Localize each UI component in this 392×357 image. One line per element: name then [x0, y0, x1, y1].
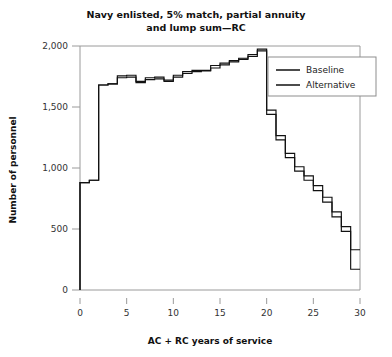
y-tick-label: 1,500: [42, 102, 68, 112]
y-tick-label: 500: [51, 224, 68, 234]
legend-label-alternative: Alternative: [306, 80, 356, 90]
x-tick-label: 5: [124, 308, 130, 318]
x-tick-label: 15: [214, 308, 225, 318]
y-tick-label: 1,000: [42, 163, 68, 173]
chart-legend: BaselineAlternative: [268, 57, 376, 96]
y-axis-tick-marks: [72, 46, 80, 290]
chart-canvas: Navy enlisted, 5% match, partial annuity…: [0, 0, 392, 357]
chart-title-line-2: and lump sum—RC: [146, 22, 245, 33]
x-tick-label: 0: [77, 308, 83, 318]
x-tick-label: 20: [261, 308, 273, 318]
y-axis-tick-labels: 05001,0001,5002,000: [42, 41, 68, 295]
y-tick-label: 2,000: [42, 41, 68, 51]
y-tick-label: 0: [62, 285, 68, 295]
x-axis-tick-labels: 051015202530: [77, 308, 366, 318]
chart-title-line-1: Navy enlisted, 5% match, partial annuity: [86, 9, 306, 20]
y-axis-title: Number of personnel: [8, 116, 18, 223]
legend-label-baseline: Baseline: [306, 65, 345, 75]
x-tick-label: 10: [168, 308, 180, 318]
x-axis-tick-marks: [80, 298, 360, 304]
x-tick-label: 30: [354, 308, 366, 318]
x-axis-title: AC + RC years of service: [148, 336, 273, 346]
x-tick-label: 25: [308, 308, 319, 318]
chart-figure: Navy enlisted, 5% match, partial annuity…: [0, 0, 392, 357]
